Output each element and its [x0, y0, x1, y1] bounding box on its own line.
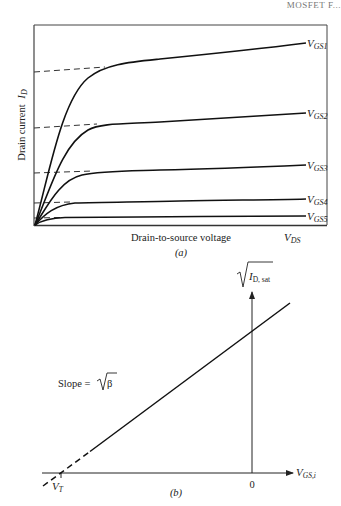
svg-text:Drain current ID: Drain current ID — [15, 89, 29, 161]
label-vgs1: VGS1 — [307, 37, 328, 51]
panel-b: ID, sat Slope = β VGS,i 0 VT (b) — [42, 262, 316, 499]
curve-vgs5 — [35, 216, 306, 225]
x-axis-label: Drain-to-source voltage — [131, 232, 231, 243]
y-axis-label: Drain current ID — [15, 89, 29, 161]
y-axis-label-b: ID, sat — [237, 262, 273, 287]
svg-text:β: β — [107, 378, 112, 389]
slope-label: Slope = β — [58, 373, 117, 390]
curve-vgs1 — [35, 43, 306, 225]
figure: VGS1 VGS2 VGS3 VGS4 VGS5 VDS Drain curre… — [0, 0, 341, 506]
sqrt-id-line — [90, 303, 290, 452]
caption-b: (b) — [170, 487, 183, 499]
label-vgs5: VGS5 — [307, 210, 328, 224]
threshold-label: VT — [52, 480, 64, 494]
svg-text:ID, sat: ID, sat — [248, 270, 271, 284]
caption-a: (a) — [175, 247, 188, 259]
extrapolated-line — [43, 452, 90, 487]
curve-vgs4 — [35, 199, 306, 225]
characteristic-curves — [35, 43, 306, 225]
label-vgs2: VGS2 — [307, 107, 328, 121]
svg-text:Slope =: Slope = — [58, 378, 91, 389]
label-vds: VDS — [284, 231, 301, 245]
panel-a: VGS1 VGS2 VGS3 VGS4 VGS5 VDS Drain curre… — [15, 25, 328, 259]
label-vgs4: VGS4 — [307, 193, 328, 207]
x-axis-label-b: VGS,i — [296, 466, 316, 480]
origin-label: 0 — [249, 479, 254, 490]
extrapolation-lines — [34, 67, 105, 218]
label-vgs3: VGS3 — [307, 159, 328, 173]
